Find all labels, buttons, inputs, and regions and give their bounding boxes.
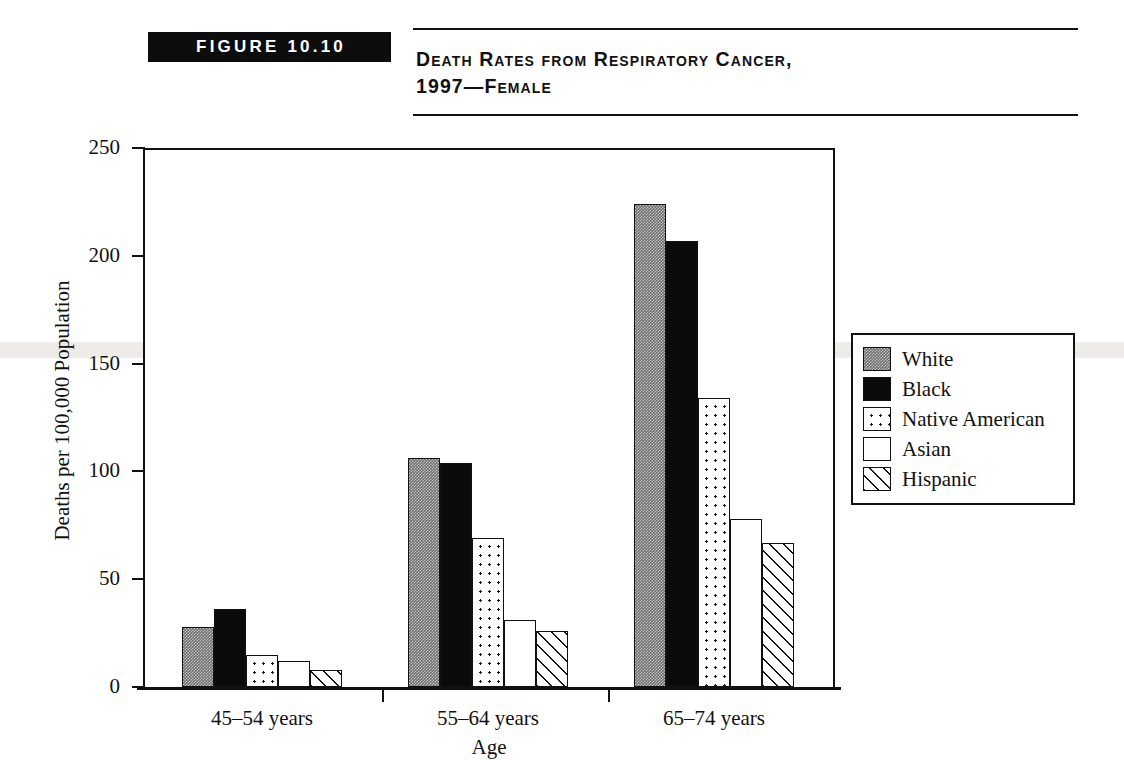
legend-item-label: Hispanic xyxy=(902,469,977,490)
legend-item-white[interactable]: White xyxy=(863,344,1063,374)
legend-item-label: White xyxy=(902,349,953,370)
title-rule-top xyxy=(413,28,1078,30)
legend-item-native-american[interactable]: Native American xyxy=(863,404,1063,434)
legend-item-label: Black xyxy=(902,379,951,400)
legend-swatch-solid-gray-icon xyxy=(863,347,891,371)
x-axis-tick xyxy=(608,690,610,702)
legend-swatch-dotted-icon xyxy=(863,407,891,431)
y-axis-tick-label: 0 xyxy=(60,676,120,697)
x-axis-tick-label: 55–64 years xyxy=(378,706,598,731)
bar-black-2 xyxy=(666,241,698,687)
bar-asian-0 xyxy=(278,661,310,687)
legend-item-asian[interactable]: Asian xyxy=(863,434,1063,464)
bar-native-american-2 xyxy=(698,398,730,687)
bar-black-0 xyxy=(214,609,246,687)
y-axis-tick-label: 50 xyxy=(60,568,120,589)
y-axis-tick-label: 200 xyxy=(60,245,120,266)
x-axis-tick xyxy=(382,690,384,702)
legend-item-hispanic[interactable]: Hispanic xyxy=(863,464,1063,494)
figure-header: FIGURE 10.10 Death Rates from Respirator… xyxy=(148,28,1078,118)
legend-item-label: Asian xyxy=(902,439,951,460)
legend-swatch-empty-white-icon xyxy=(863,437,891,461)
x-axis-title: Age xyxy=(382,735,596,760)
x-axis-line xyxy=(137,687,841,690)
chart-legend: WhiteBlackNative AmericanAsianHispanic xyxy=(851,333,1075,505)
bar-asian-2 xyxy=(730,519,762,687)
bar-hispanic-1 xyxy=(536,631,568,687)
legend-item-label: Native American xyxy=(902,409,1045,430)
figure-number-badge: FIGURE 10.10 xyxy=(148,32,391,62)
x-axis-tick-label: 65–74 years xyxy=(604,706,824,731)
legend-item-black[interactable]: Black xyxy=(863,374,1063,404)
x-axis-tick-label: 45–54 years xyxy=(152,706,372,731)
y-axis-tick-label: 150 xyxy=(60,353,120,374)
bar-asian-1 xyxy=(504,620,536,687)
bar-hispanic-2 xyxy=(762,543,794,687)
bar-white-2 xyxy=(634,204,666,687)
bar-white-0 xyxy=(182,627,214,687)
legend-swatch-solid-black-icon xyxy=(863,377,891,401)
bar-black-1 xyxy=(440,463,472,687)
chart-area: Deaths per 100,000 Population 0501001502… xyxy=(0,118,1124,760)
bar-white-1 xyxy=(408,458,440,687)
bar-native-american-1 xyxy=(472,538,504,687)
bars-layer xyxy=(143,148,835,687)
legend-swatch-diagonal-hatch-icon xyxy=(863,467,891,491)
y-axis-tick-label: 100 xyxy=(60,460,120,481)
bar-native-american-0 xyxy=(246,655,278,687)
figure-title: Death Rates from Respiratory Cancer, 199… xyxy=(416,46,1076,100)
y-axis-tick-label: 250 xyxy=(60,137,120,158)
title-rule-bottom xyxy=(413,114,1078,116)
bar-hispanic-0 xyxy=(310,670,342,687)
